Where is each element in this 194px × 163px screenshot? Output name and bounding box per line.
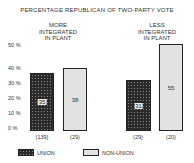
bar-more-integrated-union: 35 — [30, 73, 54, 131]
bar-value: 55 — [167, 85, 176, 91]
bar-value: 31 — [134, 103, 143, 109]
y-tick-10: 10 % — [8, 110, 21, 116]
n-more-integrated-nonunion: (29) — [63, 134, 87, 140]
y-tick-40: 40 % — [8, 65, 21, 71]
y-tick-0: 0 % — [8, 125, 17, 131]
legend-label: NON-UNION — [102, 150, 134, 156]
y-tick-30: 30 % — [8, 80, 21, 86]
n-more-integrated-union: (139) — [30, 134, 54, 140]
group-label-line: IN PLANT — [33, 35, 83, 42]
n-less-integrated-nonunion: (20) — [159, 134, 183, 140]
legend-union: UNION — [18, 149, 55, 156]
n-less-integrated-union: (29) — [126, 134, 150, 140]
bar-less-integrated-union: 31 — [126, 80, 151, 131]
group-label-line: IN PLANT — [132, 35, 182, 42]
legend-nonunion: NON-UNION — [83, 149, 134, 156]
legend-swatch-nonunion — [83, 149, 99, 156]
chart-title: PERCENTAGE REPUBLICAN OF TWO-PARTY VOTE — [0, 7, 194, 13]
bar-more-integrated-nonunion: 38 — [63, 68, 87, 131]
legend-swatch-union — [18, 149, 34, 156]
group-label-more-integrated: MORE INTEGRATED IN PLANT — [33, 22, 83, 42]
bar-value: 35 — [38, 99, 47, 105]
y-tick-50: 50 % — [8, 42, 21, 48]
legend-label: UNION — [37, 150, 55, 156]
bar-value: 38 — [71, 97, 80, 103]
y-tick-20: 20 % — [8, 95, 21, 101]
group-label-less-integrated: LESS INTEGRATED IN PLANT — [132, 22, 182, 42]
bar-less-integrated-nonunion: 55 — [159, 44, 183, 131]
